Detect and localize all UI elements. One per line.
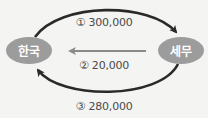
flow-diagram: 한국 세무 ① 300,000 ② 20,000 ③ 280,000	[0, 0, 208, 118]
flow-label-2: ② 20,000	[79, 59, 129, 72]
node-semu: 세무	[158, 37, 204, 64]
node-korea: 한국	[6, 37, 52, 64]
flow-label-3: ③ 280,000	[75, 100, 132, 113]
node-semu-label: 세무	[170, 42, 192, 59]
flow-label-1: ① 300,000	[75, 16, 132, 29]
node-korea-label: 한국	[18, 42, 40, 59]
